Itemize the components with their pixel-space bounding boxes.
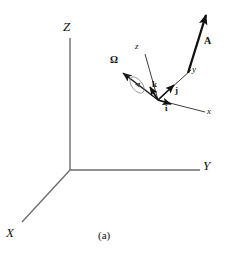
global-axes-group — [22, 38, 200, 222]
axis-label-x-global: X — [6, 226, 14, 239]
axis-z-local-line — [145, 54, 158, 100]
axis-x-global-line — [22, 170, 70, 222]
figure-caption: (a) — [98, 230, 110, 241]
axis-label-x-local: x — [207, 107, 211, 116]
unit-vector-label-i: i — [165, 104, 168, 113]
unit-vector-label-j: j — [175, 86, 178, 95]
figure-container: Z Y X z y x i j k Ω A (a) — [0, 0, 228, 254]
axis-label-z-local: z — [135, 42, 139, 51]
axis-label-z-global: Z — [63, 20, 70, 33]
axis-label-y-global: Y — [203, 159, 210, 172]
axis-label-y-local: y — [192, 65, 196, 74]
unit-vector-label-k: k — [152, 80, 157, 89]
angular-velocity-label: Ω — [110, 55, 118, 65]
unit-vector-j-arrow — [158, 85, 174, 100]
vector-a-label: A — [204, 36, 211, 46]
diagram-canvas — [0, 0, 228, 254]
